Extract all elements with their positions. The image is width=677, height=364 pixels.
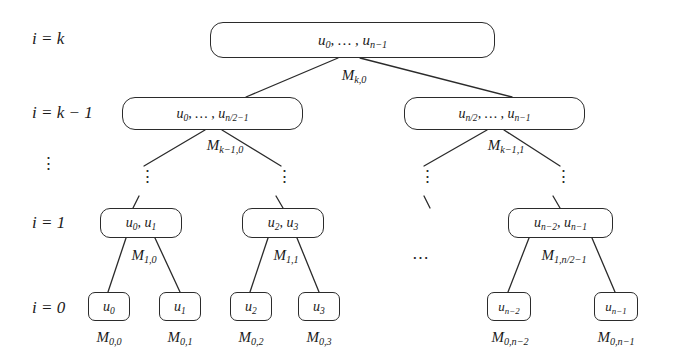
figure-canvas: i = k i = k − 1 ⋮ i = 1 i = 0 u0, … , un… <box>0 0 677 364</box>
edge-root-right <box>360 58 512 97</box>
edge-label-m-1-last: M1,n/2−1 <box>522 248 606 263</box>
edge-l1b-left <box>250 238 268 292</box>
row-label-level-1: i = 1 <box>32 214 65 231</box>
row-label-level-0: i = 0 <box>32 299 65 316</box>
node-leaf-u2: u2 <box>230 292 272 321</box>
node-leaf-u3: u3 <box>298 292 340 321</box>
edge-root-left <box>246 58 338 97</box>
node-level-k1-right: un/2, … , un−1 <box>404 97 585 130</box>
node-leaf-un-2: un−2 <box>487 292 531 321</box>
node-level-1-a: u0, u1 <box>100 208 182 238</box>
node-level-1-last: un−2, un−1 <box>508 208 613 238</box>
edge-label-m-k1-1: Mk−1,1 <box>467 138 545 153</box>
node-level-1-b: u2, u3 <box>242 208 324 238</box>
horizontal-ellipsis-level-1: ⋯ <box>412 249 429 266</box>
node-leaf-u1-label: u1 <box>174 300 186 314</box>
node-leaf-u2-label: u2 <box>245 300 257 314</box>
node-level-1-last-label: un−2, un−1 <box>534 216 587 230</box>
vertical-ellipsis-right-b: ⋮ <box>555 168 572 185</box>
leaf-label-m-0-2: M0,2 <box>225 330 277 345</box>
edge-label-m-k-0: Mk,0 <box>328 68 380 83</box>
edge-stub-l1a2 <box>424 196 430 208</box>
leaf-label-m-0-n-2: M0,n−2 <box>474 330 546 345</box>
leaf-label-m-0-n-1: M0,n−1 <box>580 330 652 345</box>
node-level-1-b-label: u2, u3 <box>268 216 299 230</box>
edge-stub-l1last <box>553 196 560 208</box>
edge-stub-l1b <box>276 196 283 208</box>
node-root: u0, … , un−1 <box>210 22 495 58</box>
edge-label-m-1-0: M1,0 <box>118 248 170 263</box>
node-leaf-un-2-label: un−2 <box>498 300 519 313</box>
node-leaf-u0-label: u0 <box>103 300 115 314</box>
node-leaf-un-1-label: un−1 <box>605 300 626 313</box>
row-label-level-k-minus-1: i = k − 1 <box>32 104 93 121</box>
node-level-k1-left-label: u0, … , un/2−1 <box>176 107 248 121</box>
edge-l1a-left <box>108 238 126 292</box>
node-leaf-u0: u0 <box>88 292 130 321</box>
node-level-1-a-label: u0, u1 <box>126 216 157 230</box>
row-label-ellipsis: ⋮ <box>40 155 57 172</box>
leaf-label-m-0-1: M0,1 <box>154 330 206 345</box>
vertical-ellipsis-left-a: ⋮ <box>139 168 156 185</box>
leaf-label-m-0-3: M0,3 <box>293 330 345 345</box>
vertical-ellipsis-left-b: ⋮ <box>276 168 293 185</box>
edge-l1last-right <box>592 238 615 292</box>
node-level-k1-right-label: un/2, … , un−1 <box>458 107 530 121</box>
edge-stub-l1a <box>133 196 139 208</box>
node-leaf-un-1: un−1 <box>594 292 638 321</box>
node-root-label: u0, … , un−1 <box>318 33 387 48</box>
leaf-label-m-0-0: M0,0 <box>83 330 135 345</box>
node-level-k1-left: u0, … , un/2−1 <box>122 97 303 130</box>
edge-l1last-left <box>508 238 529 292</box>
edge-l1b-right <box>297 238 319 292</box>
row-label-level-k: i = k <box>32 30 64 47</box>
node-leaf-u1: u1 <box>159 292 201 321</box>
edge-l1a-right <box>155 238 180 292</box>
vertical-ellipsis-right-a: ⋮ <box>419 168 436 185</box>
edge-label-m-k1-0: Mk−1,0 <box>186 138 264 153</box>
edge-label-m-1-1: M1,1 <box>260 248 312 263</box>
node-leaf-u3-label: u3 <box>313 300 325 314</box>
